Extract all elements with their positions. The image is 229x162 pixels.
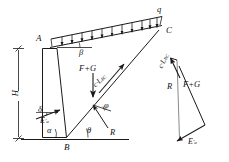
- label-wall-height: H: [11, 90, 20, 96]
- label-theta-angle: θ: [87, 126, 91, 135]
- label-reaction-force-diagram: R: [110, 128, 115, 137]
- label-phi-angle: φ: [104, 101, 109, 110]
- surcharge-left-tick: [51, 39, 52, 47]
- label-surcharge-q: q: [157, 5, 161, 14]
- backfill-slope-line: [50, 26, 162, 48]
- surcharge-right-tick: [160, 17, 162, 26]
- label-point-b: B: [64, 143, 70, 152]
- figure-canvas: A B C q β α θ φ δ H F+G c·LBC R E′a c·LB…: [0, 0, 229, 162]
- active-thrust-subscript: a: [46, 119, 48, 124]
- polygon-cohesion-vector: [171, 58, 181, 78]
- label-alpha-angle: α: [47, 126, 51, 135]
- label-delta-angle: δ: [38, 105, 42, 114]
- label-active-thrust-polygon: E′a: [188, 138, 197, 146]
- label-reaction-force-polygon: R: [167, 82, 172, 91]
- surcharge-top-line: [51, 17, 162, 40]
- alpha-angle-arc: [55, 129, 56, 138]
- label-weight-force-polygon: F+G: [183, 80, 200, 89]
- surcharge-arrows: [62, 18, 157, 46]
- label-weight-force: F+G: [79, 64, 96, 73]
- polygon-weight-vector: [179, 66, 205, 125]
- label-point-a: A: [36, 34, 42, 43]
- label-active-thrust-diagram: E′a: [40, 117, 49, 125]
- polygon-active-thrust-subscript: a: [194, 140, 196, 145]
- label-beta-angle: β: [79, 48, 83, 57]
- label-point-c: C: [166, 26, 172, 35]
